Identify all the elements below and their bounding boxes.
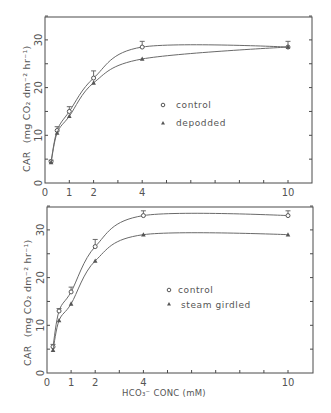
top-y-axis-label: CAR(mg CO₂ dm⁻² hr⁻¹) — [21, 45, 32, 172]
x-tick-label: 10 — [282, 377, 295, 388]
legend-control-marker-icon — [167, 288, 171, 292]
y-tick-label: 30 — [33, 34, 44, 47]
x-tick-label: 4 — [139, 187, 145, 198]
top-legend-control-label: control — [176, 100, 211, 110]
data-point-triangle-icon — [69, 301, 74, 305]
top-series — [49, 41, 291, 164]
data-point-circle-icon — [67, 109, 71, 113]
data-point-circle-icon — [57, 309, 61, 313]
x-tick-label: 1 — [66, 187, 72, 198]
y-tick-label: 0 — [33, 180, 44, 186]
bottom-legend-steam-girdled-label: steam girdled — [181, 300, 251, 310]
y-tick-label: 0 — [35, 370, 46, 376]
top-panel: 0124100102030 CAR(mg CO₂ dm⁻² hr⁻¹) cont… — [21, 16, 312, 198]
y-tick-label: 10 — [35, 319, 46, 332]
y-tick-label: 20 — [33, 81, 44, 94]
x-tick-label: 2 — [90, 187, 96, 198]
legend-control-marker-icon — [161, 103, 165, 107]
data-point-circle-icon — [69, 290, 73, 294]
series-curve-control — [51, 45, 288, 162]
x-tick-label: 1 — [68, 377, 74, 388]
legend-depodded-marker-icon — [161, 121, 165, 125]
data-point-circle-icon — [93, 245, 97, 249]
x-tick-label: 0 — [42, 187, 48, 198]
x-tick-label: 0 — [44, 377, 50, 388]
x-tick-label: 2 — [92, 377, 98, 388]
bottom-series — [51, 211, 291, 352]
series-curve-depodded — [51, 47, 288, 162]
bottom-legend: control steam girdled — [167, 285, 251, 310]
data-point-circle-icon — [92, 76, 96, 80]
data-point-circle-icon — [140, 45, 144, 49]
bottom-y-axis-label: CAR(mg CO₂ dm⁻² hr⁻¹) — [22, 239, 33, 366]
bottom-x-axis-label: HCO₃⁻ CONC (mM) — [122, 388, 206, 398]
bottom-legend-control-label: control — [178, 285, 213, 295]
x-tick-label: 4 — [140, 377, 146, 388]
chart-svg: 0124100102030 CAR(mg CO₂ dm⁻² hr⁻¹) cont… — [0, 0, 331, 413]
figure: 0124100102030 CAR(mg CO₂ dm⁻² hr⁻¹) cont… — [0, 0, 331, 413]
top-legend: control depodded — [161, 100, 226, 128]
y-tick-label: 20 — [35, 271, 46, 284]
x-tick-label: 10 — [282, 187, 295, 198]
data-point-circle-icon — [286, 214, 290, 218]
bottom-panel: 0124100102030 CAR(mg CO₂ dm⁻² hr⁻¹) cont… — [22, 206, 313, 398]
data-point-circle-icon — [141, 214, 145, 218]
top-legend-depodded-label: depodded — [176, 118, 226, 128]
y-tick-label: 10 — [33, 129, 44, 142]
y-tick-label: 30 — [35, 224, 46, 237]
legend-steam-girdled-marker-icon — [167, 302, 171, 306]
